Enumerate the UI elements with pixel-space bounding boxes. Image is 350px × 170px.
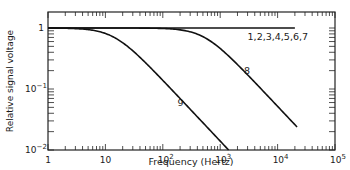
x-tick-label: 105 — [330, 153, 346, 165]
frequency-response-chart: 110102103104105110−110−2 1,2,3,4,5,6,789… — [0, 0, 350, 170]
y-tick-label: 1 — [38, 23, 44, 33]
x-axis-label: Frequency (Hertz) — [148, 156, 233, 167]
x-tick-label: 104 — [273, 153, 289, 165]
plot-curves — [48, 28, 297, 150]
curve-label: 1,2,3,4,5,6,7 — [248, 31, 308, 42]
curve-label: 9 — [177, 97, 183, 108]
x-tick-label: 1 — [45, 155, 51, 165]
curve-9 — [48, 28, 229, 150]
y-tick-label: 10−2 — [25, 143, 47, 155]
y-axis-label: Relative signal voltage — [5, 29, 15, 132]
y-tick-label: 10−1 — [25, 82, 47, 94]
curve-label: 8 — [244, 65, 250, 76]
curve-8 — [48, 28, 297, 127]
x-tick-label: 10 — [100, 155, 112, 165]
